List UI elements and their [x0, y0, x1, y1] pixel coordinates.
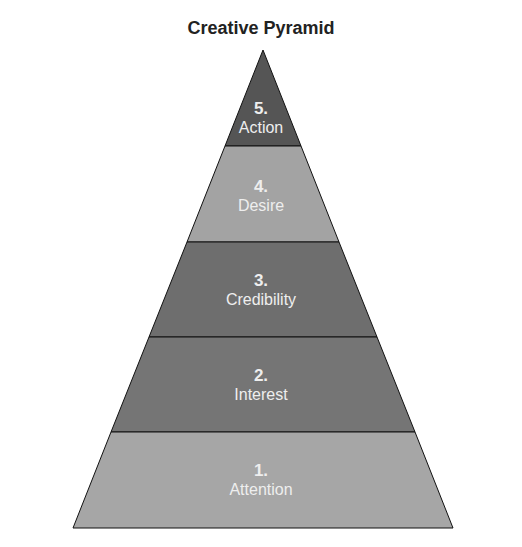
- level-5-label: 5.Action: [0, 99, 522, 137]
- level-3-label: 3.Credibility: [0, 271, 522, 309]
- level-4-label: 4.Desire: [0, 177, 522, 215]
- level-2-label: 2.Interest: [0, 366, 522, 404]
- level-1-label: 1.Attention: [0, 461, 522, 499]
